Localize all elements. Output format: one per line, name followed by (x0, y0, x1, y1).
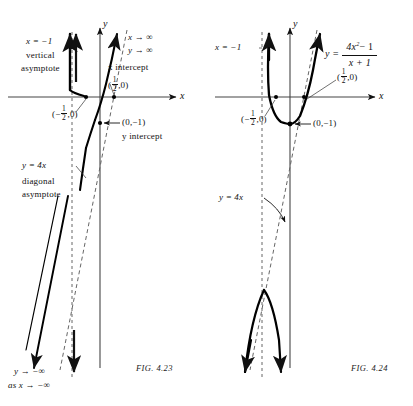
y-intercept-point-left: (0,−1) (122, 117, 146, 128)
fraction-one-half: 12 (341, 68, 347, 84)
y-axis-label-right: y (293, 18, 298, 29)
limit-y-to-negative-infinity-left: y → −∞ (14, 366, 45, 377)
x-axis-label-right: x (379, 90, 384, 101)
paren-open: (− (241, 114, 249, 124)
curve-lower-right-arm-right (264, 290, 281, 372)
limit-y-to-infinity-left: y → ∞ (128, 45, 153, 56)
diagonal-asymptote-word2-left: asymptote (22, 189, 61, 200)
point-x-intercept-neg-left (84, 95, 88, 99)
curve-upper-right-arm-right (290, 34, 320, 124)
x-intercept-point-left: (12,0) (108, 76, 129, 92)
function-numerator: 4x2− 1 (342, 40, 377, 55)
fraction-one-half: 12 (112, 76, 118, 92)
vertical-asymptote-word2-left: asymptote (21, 63, 60, 74)
vertical-asymptote-word1-left: vertical (26, 50, 55, 61)
y-intercept-label-left: y intercept (122, 131, 162, 142)
function-equation-right: y =4x2− 1x + 1 (325, 40, 377, 69)
diagonal-asymptote-right (250, 30, 317, 370)
plot-canvas-right (207, 0, 413, 406)
y-intercept-point-right: (0,−1) (313, 118, 337, 129)
point-x-intercept-pos-left (112, 95, 116, 99)
curve-lower-left-branch-left (34, 196, 68, 368)
figure-caption-left: FIG. 4.23 (136, 363, 173, 373)
x-intercept-negative-point-left: (−12,0) (52, 105, 78, 121)
paren-open: (− (52, 109, 60, 119)
curve-right-lower-left (86, 120, 95, 148)
curve-right-tail-left (80, 148, 86, 190)
x-intercept-negative-point-right: (−12,0) (241, 110, 267, 126)
point-y-intercept-left (98, 121, 102, 125)
figure-panel-left: x = −1 vertical asymptote x → ∞ y → ∞ x … (0, 0, 206, 406)
diagonal-asymptote-word1-left: diagonal (22, 176, 55, 187)
point-x-intercept-pos-right (302, 95, 306, 99)
function-fraction: 4x2− 1x + 1 (342, 40, 377, 69)
x-axis-label-left: x (180, 90, 185, 101)
diagonal-asymptote-equation-left: y = 4x (22, 160, 46, 171)
x-intercept-point-right: (12,0) (337, 68, 358, 84)
figure-caption-right: FIG. 4.24 (351, 363, 388, 373)
curve-upper-left-arm-right (268, 34, 290, 124)
vertical-asymptote-equation-left: x = −1 (26, 36, 52, 47)
point-x-intercept-neg-right (274, 95, 278, 99)
y-axis-label-left: y (103, 18, 108, 29)
limit-x-to-infinity-left: x → ∞ (128, 32, 153, 43)
function-lhs: y = (325, 48, 339, 59)
vertical-asymptote-equation-right: x = −1 (215, 42, 241, 53)
paren-close: ,0) (256, 114, 266, 124)
point-y-intercept-right (288, 122, 293, 127)
limit-as-x-to-negative-infinity-left: as x → −∞ (8, 380, 50, 391)
paren-close: ,0) (118, 80, 128, 90)
diagonal-asymptote-equation-right: y = 4x (219, 192, 243, 203)
paren-close: ,0) (67, 109, 77, 119)
x-intercept-label-left: x intercept (108, 62, 148, 73)
paren-close: ,0) (347, 72, 357, 82)
figure-panel-right: x = −1 y =4x2− 1x + 1 (12,0) (−12,0) (0,… (207, 0, 413, 406)
